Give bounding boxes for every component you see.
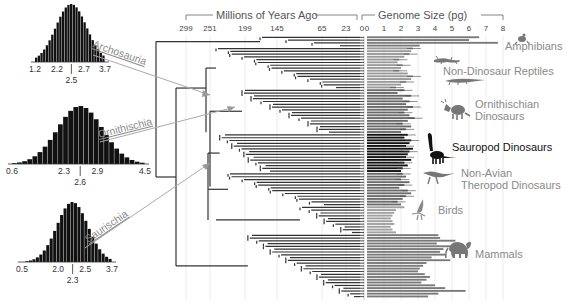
genome-bar (367, 206, 404, 208)
histogram-tick: 2.0 (52, 264, 64, 274)
genome-bar (367, 103, 406, 105)
time-axis-title: Millions of Years Ago (216, 9, 318, 21)
group-label-theropod-line2: Theropod Dinosaurs (461, 179, 561, 191)
histogram-tick: 4.5 (139, 166, 151, 176)
genome-tick: 2 (399, 24, 404, 33)
genome-bar (367, 84, 401, 86)
genome-bar (367, 204, 401, 206)
genome-bar (367, 284, 435, 286)
group-label-ornithischian-line2: Dinosaurs (475, 110, 525, 122)
genome-bar (367, 245, 459, 247)
genome-bar (367, 287, 445, 289)
genome-bar (367, 187, 399, 189)
genome-bar (367, 47, 413, 49)
histogram-median: 2.5 (65, 75, 77, 85)
phylogenetic-tree (156, 37, 360, 296)
genome-bar (367, 282, 421, 284)
genome-bar (367, 212, 394, 214)
genome-bar (367, 109, 408, 111)
time-tick: 145 (270, 24, 284, 33)
group-label-birds: Birds (438, 204, 464, 216)
genome-bar (367, 67, 401, 69)
genome-bar (367, 293, 438, 295)
genome-tick: 3 (416, 24, 421, 33)
histogram-tick: 0.5 (16, 264, 28, 274)
triceratops-icon (441, 99, 470, 120)
genome-bar (367, 61, 398, 63)
genome-size-phylogeny-figure: Millions of Years Ago 29925119914565230 … (0, 0, 571, 306)
time-axis: Millions of Years Ago 29925119914565230 (179, 9, 364, 33)
genome-bar (367, 248, 444, 250)
genome-bar (367, 276, 430, 278)
genome-axis-title: Genome Size (pg) (378, 9, 467, 21)
genome-bar (367, 153, 408, 155)
genome-tick: 8 (501, 24, 506, 33)
genome-bar (367, 215, 393, 217)
time-tick: 251 (203, 24, 217, 33)
clade-label-saurischia: Saurischia (82, 207, 129, 244)
clade-label-archosauria: Archosauria (91, 38, 148, 68)
genome-tick: 1 (382, 24, 387, 33)
genome-bar (367, 234, 438, 236)
theropod-icon (423, 172, 455, 185)
genome-axis: Genome Size (pg) 012345678 (362, 9, 506, 33)
genome-tick: 0 (365, 24, 370, 33)
genome-tick: 4 (433, 24, 438, 33)
genome-bar (367, 151, 410, 153)
genome-bar (367, 95, 411, 97)
genome-bar (367, 92, 398, 94)
genome-bar (367, 159, 411, 161)
genome-bar (367, 176, 406, 178)
genome-bar (367, 290, 466, 292)
genome-bar (367, 165, 408, 167)
genome-bar (367, 270, 418, 272)
crocodile-icon (445, 79, 485, 85)
genome-bar (367, 198, 403, 200)
genome-bar (367, 181, 410, 183)
genome-bar (367, 117, 415, 119)
time-tick: 199 (238, 24, 252, 33)
genome-bar (367, 254, 445, 256)
histogram-median: 2.6 (74, 177, 86, 187)
genome-bar (367, 251, 440, 253)
time-tick: 65 (318, 24, 327, 33)
genome-bar (367, 142, 410, 144)
genome-bar (367, 229, 393, 231)
genome-bar (367, 106, 413, 108)
genome-bar (367, 296, 428, 298)
genome-bar (367, 56, 404, 58)
genome-bar (367, 53, 410, 55)
genome-bar (367, 256, 432, 258)
genome-bar (367, 98, 403, 100)
histogram-tick: 3.7 (106, 264, 118, 274)
genome-bar (367, 223, 394, 225)
genome-bar (367, 192, 411, 194)
genome-bar (367, 259, 450, 261)
genome-bar (367, 148, 413, 150)
genome-bar (367, 131, 401, 133)
genome-bar (367, 226, 391, 228)
histogram-tick: 1.2 (29, 64, 41, 74)
time-tick: 23 (342, 24, 351, 33)
genome-bar (367, 262, 427, 264)
genome-bar (367, 268, 420, 270)
histogram-ornithischia: 0.62.32.94.52.6 (6, 106, 151, 187)
genome-bar (367, 78, 411, 80)
genome-bar (367, 273, 425, 275)
clade-label-ornithischia: Ornithischia (97, 115, 154, 140)
group-label-amphibians: Amphibians (505, 40, 563, 52)
histogram-tick: 3.7 (99, 64, 111, 74)
genome-bar (367, 73, 408, 75)
figure-canvas: Millions of Years Ago 29925119914565230 … (0, 0, 571, 306)
group-label-non-dinosaur-reptiles: Non-Dinosaur Reptiles (443, 65, 554, 77)
genome-bar (367, 265, 423, 267)
genome-bar (367, 190, 408, 192)
genome-bar (367, 217, 391, 219)
histogram-median: 2.3 (67, 275, 79, 285)
histogram-tick: 2.2 (51, 64, 63, 74)
genome-bar (367, 240, 455, 242)
genome-bar (367, 45, 420, 47)
histogram-tick: 2.5 (79, 264, 91, 274)
genome-bar (367, 170, 401, 172)
posterior-histograms: 1.22.22.73.72.50.62.32.94.52.60.52.02.53… (6, 4, 151, 285)
